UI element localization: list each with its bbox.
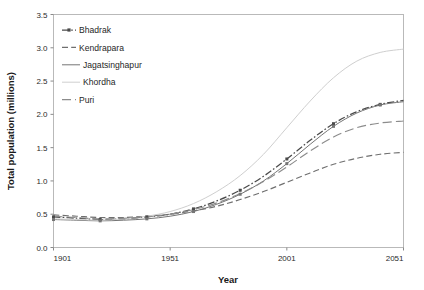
series-line-puri — [54, 121, 404, 219]
series-marker-jagatsinghapur — [192, 210, 195, 213]
series-line-khordha — [54, 49, 404, 220]
series-marker-jagatsinghapur — [145, 217, 148, 220]
x-axis-tick-labels: 1901195120012051 — [54, 254, 405, 263]
y-tick-label: 3.5 — [36, 11, 48, 20]
series-marker-bhadrak — [239, 189, 242, 192]
series-marker-jagatsinghapur — [99, 219, 102, 222]
y-tick-label: 1.0 — [36, 177, 48, 186]
series-marker-jagatsinghapur — [379, 104, 382, 107]
y-tick-label: 2.5 — [36, 77, 48, 86]
y-tick-label: 0.5 — [36, 210, 48, 219]
series-marker-bhadrak — [52, 215, 55, 218]
series-marker-jagatsinghapur — [52, 218, 55, 221]
legend-marker-bhadrak — [67, 28, 70, 31]
y-tick-label: 3.0 — [36, 44, 48, 53]
series-marker-bhadrak — [192, 207, 195, 210]
series-marker-bhadrak — [332, 122, 335, 125]
y-axis-tick-labels: 0.00.51.01.52.02.53.03.5 — [36, 11, 48, 253]
y-tick-label: 0.0 — [36, 244, 48, 253]
y-tick-label: 1.5 — [36, 144, 48, 153]
series-lines — [54, 49, 404, 221]
chart-legend: BhadrakKendraparaJagatsinghapurKhordhaPu… — [62, 25, 142, 105]
series-line-kendrapara — [54, 152, 404, 217]
y-axis-title: Total population (millions) — [5, 72, 16, 190]
legend-label-puri: Puri — [79, 95, 94, 105]
x-tick-label: 2001 — [278, 254, 296, 263]
population-line-chart: 0.00.51.01.52.02.53.03.5 190119512001205… — [0, 0, 424, 290]
x-tick-label: 1901 — [54, 254, 72, 263]
series-marker-jagatsinghapur — [285, 162, 288, 165]
legend-label-kendrapara: Kendrapara — [79, 43, 124, 53]
series-marker-jagatsinghapur — [239, 193, 242, 196]
y-tick-label: 2.0 — [36, 110, 48, 119]
legend-label-khordha: Khordha — [83, 77, 116, 87]
series-marker-bhadrak — [285, 157, 288, 160]
legend-label-jagatsinghapur: Jagatsinghapur — [83, 60, 142, 70]
x-tick-label: 1951 — [161, 254, 179, 263]
legend-label-bhadrak: Bhadrak — [79, 25, 112, 35]
series-marker-jagatsinghapur — [332, 125, 335, 128]
x-axis-title: Year — [218, 274, 238, 285]
x-tick-label: 2051 — [386, 254, 404, 263]
chart-canvas: 0.00.51.01.52.02.53.03.5 190119512001205… — [0, 0, 424, 290]
